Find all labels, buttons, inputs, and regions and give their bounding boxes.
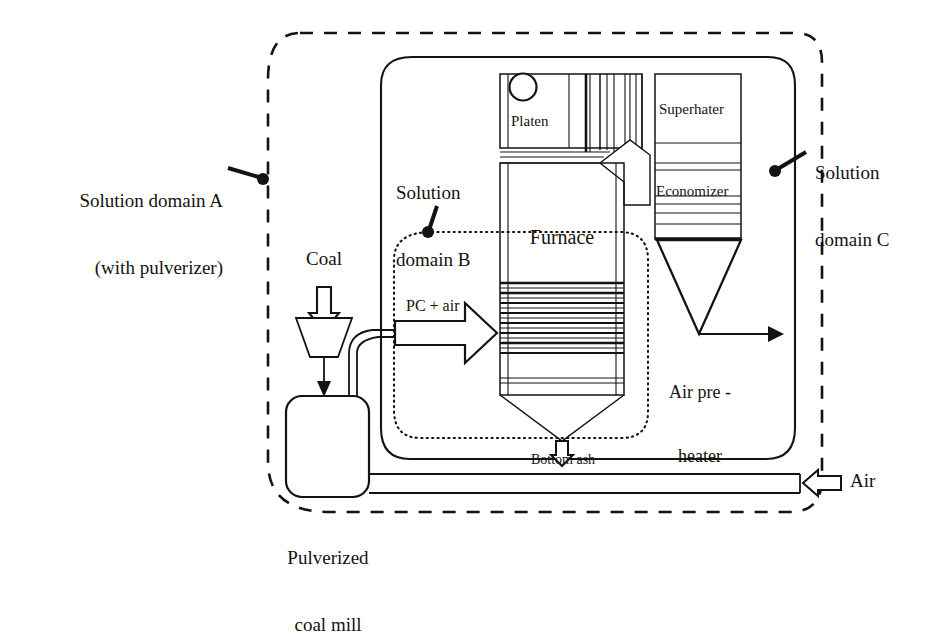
domain-b-label-line1: Solution: [396, 182, 470, 204]
furnace-label: Furnace: [500, 226, 624, 250]
pc-air-stream-label: PC + air: [406, 297, 459, 316]
pulverized-coal-mill: [286, 396, 369, 497]
air-preheater-label-line2: heater: [630, 446, 770, 467]
domain-b-label-line2: domain B: [396, 249, 470, 271]
mill-label-line1: Pulverized: [245, 547, 411, 569]
domain-a-label-line2: (with pulverizer): [18, 257, 223, 279]
mill-label: Pulverized coal mill: [245, 502, 411, 635]
coal-feed-group: [296, 287, 352, 397]
air-preheater-label: Air pre - heater: [630, 340, 770, 510]
platen-label: Platen: [511, 113, 549, 131]
burner-zone-tubes: [500, 283, 624, 353]
domain-b-label: Solution domain B: [396, 137, 470, 316]
bottom-ash-label: Bottom ash: [502, 452, 624, 469]
mill-label-line2: coal mill: [245, 614, 411, 635]
domain-c-label: Solution domain C: [815, 117, 889, 296]
superheater-label: Superhater: [659, 101, 724, 119]
domain-a-label-line1: Solution domain A: [18, 190, 223, 212]
domain-c-label-line2: domain C: [815, 229, 889, 251]
backpass-hopper: [657, 240, 741, 334]
furnace-ash-hopper: [500, 395, 624, 441]
steam-drum-icon: [510, 74, 537, 101]
air-stream-label: Air: [850, 470, 875, 492]
furnace-shaft: [500, 163, 624, 395]
domain-a-label: Solution domain A (with pulverizer): [18, 145, 223, 324]
air-preheater-label-line1: Air pre -: [630, 382, 770, 403]
coal-stream-label: Coal: [282, 248, 366, 270]
backpass-box: [655, 74, 741, 239]
domain-a-anchor-dot: [257, 173, 269, 185]
coal-hopper: [296, 318, 352, 357]
air-inlet-arrow: [803, 470, 841, 496]
economizer-label: Economizer: [656, 183, 728, 201]
domain-c-label-line1: Solution: [815, 162, 889, 184]
domain-c-anchor-dot: [769, 165, 781, 177]
